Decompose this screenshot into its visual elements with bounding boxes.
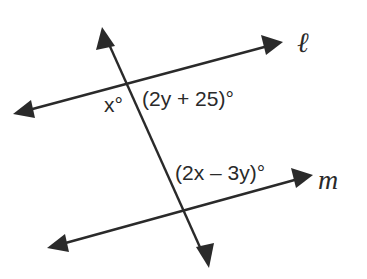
- line-l-right-arrow-icon: [261, 35, 283, 55]
- transversal-bottom-arrow-icon: [196, 243, 214, 268]
- line-m-right-arrow-icon: [291, 168, 313, 188]
- line-m-left-arrow-icon: [47, 234, 69, 252]
- parallel-lines-diagram: ℓ m x° (2y + 25)° (2x – 3y)°: [0, 0, 367, 279]
- transversal-segment: [108, 42, 203, 254]
- transversal: [96, 27, 214, 268]
- angle-label-2x-minus-3y: (2x – 3y)°: [175, 161, 265, 184]
- angle-label-x: x°: [104, 93, 123, 116]
- line-l-left-arrow-icon: [13, 100, 35, 118]
- line-l-name: ℓ: [297, 27, 309, 58]
- line-m-name: m: [318, 164, 338, 195]
- diagram-canvas: ℓ m x° (2y + 25)° (2x – 3y)°: [0, 0, 367, 279]
- transversal-top-arrow-icon: [96, 27, 115, 50]
- line-m-segment: [60, 179, 300, 245]
- angle-label-2y-plus-25: (2y + 25)°: [142, 87, 234, 110]
